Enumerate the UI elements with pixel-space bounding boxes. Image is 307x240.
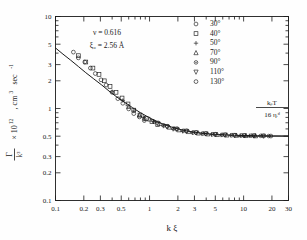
data-point-30° bbox=[89, 66, 93, 70]
data-point-90° bbox=[144, 118, 145, 119]
data-point-40° bbox=[108, 84, 112, 88]
scatter-plot: 0.10.20.30.512351020300.10.20.30.5123510… bbox=[0, 0, 307, 240]
data-point-30° bbox=[83, 60, 87, 64]
x-tick-label: 3 bbox=[193, 205, 197, 213]
annotation-nu: ν = 0.616 bbox=[93, 28, 121, 37]
data-point-40° bbox=[114, 90, 118, 94]
y-tick-label: 3 bbox=[48, 61, 52, 69]
y-tick-label: 0.2 bbox=[43, 169, 52, 177]
data-point-90° bbox=[241, 135, 242, 136]
x-tick-label: 5 bbox=[214, 205, 218, 213]
legend-marker-110° bbox=[194, 70, 198, 74]
svg-text:, cm: , cm bbox=[10, 95, 19, 110]
y-tick-label: 10 bbox=[45, 13, 53, 21]
x-tick-label: 0.1 bbox=[51, 205, 60, 213]
svg-text:3: 3 bbox=[8, 90, 14, 93]
legend-label-90°: 90° bbox=[210, 57, 221, 66]
svg-text:k³: k³ bbox=[15, 151, 24, 158]
asymptote-denominator: 16 ηᵢᵈ bbox=[264, 111, 281, 119]
data-point-90° bbox=[260, 135, 261, 136]
y-tick-label: 5 bbox=[48, 41, 52, 49]
asymptote-numerator: kᵦT bbox=[267, 99, 277, 107]
x-tick-label: 0.3 bbox=[96, 205, 105, 213]
x-tick-label: 0.2 bbox=[79, 205, 88, 213]
data-point-90° bbox=[163, 125, 164, 126]
data-point-30° bbox=[93, 72, 97, 76]
svg-text:-1: -1 bbox=[8, 64, 14, 69]
legend-label-70°: 70° bbox=[210, 48, 221, 57]
y-tick-label: 2 bbox=[48, 77, 52, 85]
data-point-90° bbox=[212, 134, 213, 135]
x-tick-label: 20 bbox=[268, 205, 276, 213]
svg-text:12: 12 bbox=[8, 119, 14, 125]
data-point-90° bbox=[173, 128, 174, 129]
x-tick-label: 1 bbox=[148, 205, 152, 213]
legend-marker-40° bbox=[194, 32, 198, 36]
data-point-90° bbox=[193, 132, 194, 133]
legend-marker-70° bbox=[194, 51, 198, 55]
legend-marker-30° bbox=[194, 22, 198, 26]
x-axis-label: k ξ bbox=[167, 223, 178, 233]
x-tick-label: 0.5 bbox=[117, 205, 126, 213]
y-axis-label: Γk³× 1012, cm3 sec-1 bbox=[5, 64, 24, 161]
legend-label-130°: 130° bbox=[210, 77, 224, 86]
data-point-90° bbox=[222, 134, 223, 135]
y-tick-label: 0.1 bbox=[43, 197, 52, 205]
figure-panel: 0.10.20.30.512351020300.10.20.30.5123510… bbox=[0, 0, 307, 240]
theory-curve bbox=[56, 48, 289, 136]
y-tick-label: 0.5 bbox=[43, 133, 52, 141]
legend-label-110°: 110° bbox=[210, 67, 224, 76]
data-point-30° bbox=[104, 83, 108, 87]
legend-label-30°: 30° bbox=[210, 19, 221, 28]
data-point-90° bbox=[202, 133, 203, 134]
legend-label-40°: 40° bbox=[210, 29, 221, 38]
x-tick-label: 10 bbox=[240, 205, 248, 213]
data-point-90° bbox=[231, 135, 232, 136]
legend-marker-130° bbox=[194, 80, 198, 84]
svg-text:sec: sec bbox=[10, 74, 19, 85]
data-point-90° bbox=[154, 121, 155, 122]
svg-text:× 10: × 10 bbox=[10, 125, 19, 140]
legend-marker-90° bbox=[195, 62, 196, 63]
legend-label-50°: 50° bbox=[210, 38, 221, 47]
x-tick-label: 2 bbox=[176, 205, 180, 213]
annotation-xi0: ξ₀ = 2.56 Å bbox=[90, 41, 125, 50]
data-point-40° bbox=[97, 72, 101, 76]
data-point-90° bbox=[183, 130, 184, 131]
y-tick-label: 0.3 bbox=[43, 153, 52, 161]
data-point-90° bbox=[251, 135, 252, 136]
data-point-30° bbox=[72, 50, 76, 54]
y-tick-label: 1 bbox=[48, 105, 52, 113]
svg-text:Γ: Γ bbox=[5, 152, 14, 157]
x-tick-label: 30 bbox=[285, 205, 293, 213]
